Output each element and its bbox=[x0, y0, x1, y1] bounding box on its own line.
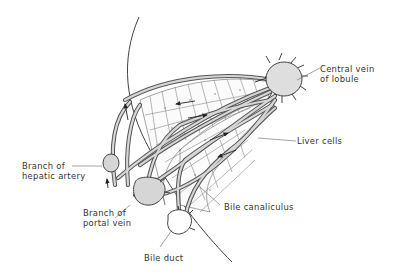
label-central-vein-line2: of lobule bbox=[320, 74, 375, 84]
label-portal-vein: Branch of portal vein bbox=[83, 208, 131, 228]
label-liver-cells: Liver cells bbox=[297, 136, 342, 146]
label-hepatic-artery-line2: hepatic artery bbox=[22, 171, 85, 181]
label-portal-vein-line1: Branch of bbox=[83, 208, 131, 218]
label-portal-vein-line2: portal vein bbox=[83, 218, 131, 228]
label-hepatic-artery: Branch of hepatic artery bbox=[22, 161, 85, 181]
label-hepatic-artery-line1: Branch of bbox=[22, 161, 85, 171]
portal-vein-branch bbox=[134, 177, 171, 205]
liver-lobule-diagram: Central vein of lobule Liver cells Branc… bbox=[0, 0, 394, 276]
label-central-vein-line1: Central vein bbox=[320, 64, 375, 74]
label-bile-canaliculus: Bile canaliculus bbox=[224, 202, 294, 212]
label-bile-duct: Bile duct bbox=[144, 253, 183, 263]
label-central-vein: Central vein of lobule bbox=[320, 64, 375, 84]
hepatic-artery-branch bbox=[103, 154, 119, 172]
